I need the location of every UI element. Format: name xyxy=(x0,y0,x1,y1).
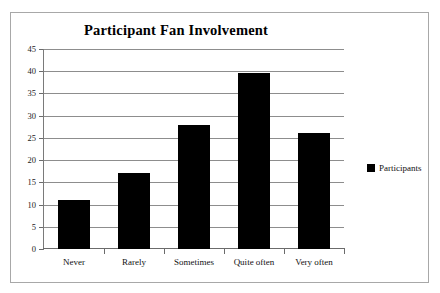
y-tick-label: 15 xyxy=(28,177,37,187)
y-tick-mark xyxy=(39,182,43,183)
y-tick-label: 45 xyxy=(28,44,37,54)
legend-label-participants: Participants xyxy=(379,163,422,173)
bar-sometimes[interactable] xyxy=(178,125,210,249)
bar-very-often[interactable] xyxy=(298,133,330,249)
bar-quite-often[interactable] xyxy=(238,73,270,249)
y-tick-label: 20 xyxy=(28,155,37,165)
y-tick-label: 5 xyxy=(32,222,36,232)
x-tick-mark xyxy=(344,249,345,254)
x-tick-label: Very often xyxy=(269,257,359,267)
y-tick-mark xyxy=(39,160,43,161)
chart-figure-frame: Participant Fan Involvement 454035302520… xyxy=(10,12,429,283)
chart-legend: Participants xyxy=(367,163,422,173)
y-tick-mark xyxy=(39,205,43,206)
bar-slot: Never xyxy=(44,49,104,249)
y-tick-label: 25 xyxy=(28,133,37,143)
y-tick-label: 35 xyxy=(28,88,37,98)
x-tick-mark xyxy=(164,249,165,254)
bar-slot: Rarely xyxy=(104,49,164,249)
y-tick-label: 30 xyxy=(28,111,37,121)
x-tick-mark xyxy=(104,249,105,254)
bar-slot: Quite often xyxy=(224,49,284,249)
y-tick-label: 10 xyxy=(28,200,37,210)
y-tick-mark xyxy=(39,138,43,139)
bar-never[interactable] xyxy=(58,200,90,249)
bars-layer: NeverRarelySometimesQuite oftenVery ofte… xyxy=(44,49,344,249)
plot-area: 454035302520151050 NeverRarelySometimesQ… xyxy=(44,49,344,249)
y-tick-mark xyxy=(39,71,43,72)
y-tick-mark xyxy=(39,49,43,50)
x-tick-mark xyxy=(224,249,225,254)
y-tick-mark xyxy=(39,116,43,117)
y-tick-mark xyxy=(39,249,43,250)
legend-swatch-participants xyxy=(367,164,375,172)
y-tick-label: 40 xyxy=(28,66,37,76)
chart-title: Participant Fan Involvement xyxy=(11,22,341,39)
y-tick-mark xyxy=(39,227,43,228)
bar-slot: Very often xyxy=(284,49,344,249)
bar-slot: Sometimes xyxy=(164,49,224,249)
y-tick-label: 0 xyxy=(32,244,36,254)
y-tick-mark xyxy=(39,93,43,94)
bar-rarely[interactable] xyxy=(118,173,150,249)
x-tick-mark xyxy=(284,249,285,254)
